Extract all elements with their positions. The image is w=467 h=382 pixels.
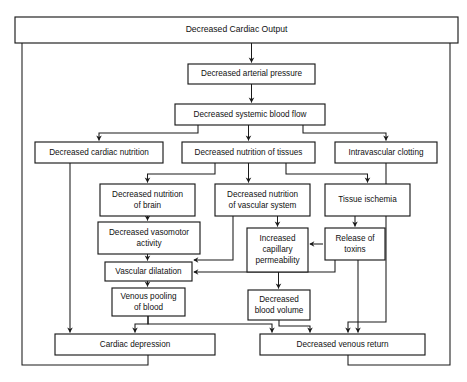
node-decreased-nutrition-of-vascular-system: Decreased nutritionof vascular system	[215, 184, 310, 216]
node-venous-pooling-of-blood: Venous poolingof blood	[112, 288, 185, 316]
node-decreased-venous-return: Decreased venous return	[260, 334, 425, 355]
node-cardiac-depression: Cardiac depression	[55, 334, 215, 355]
node-label-decreased-nutrition-of-vascular-system: of vascular system	[229, 201, 297, 210]
node-label-decreased-nutrition-of-brain: Decreased nutrition	[112, 190, 183, 199]
node-label-venous-pooling-of-blood: of blood	[134, 303, 164, 312]
node-intravascular-clotting: Intravascular clotting	[335, 142, 437, 163]
node-label-intravascular-clotting: Intravascular clotting	[348, 148, 424, 157]
node-label-decreased-vasomotor-activity: Decreased vasomotor	[109, 228, 189, 237]
node-layer: Decreased Cardiac OutputDecreased arteri…	[15, 17, 458, 355]
node-decreased-cardiac-nutrition: Decreased cardiac nutrition	[35, 142, 163, 163]
flowchart-diagram: Decreased Cardiac OutputDecreased arteri…	[0, 0, 467, 382]
node-label-decreased-cardiac-output: Decreased Cardiac Output	[186, 24, 288, 34]
node-release-of-toxins: Release oftoxins	[325, 228, 385, 260]
node-decreased-vasomotor-activity: Decreased vasomotoractivity	[98, 222, 200, 254]
connector-decreased-systemic-blood-flow-to-decreased-cardiac-nutrition	[99, 125, 198, 141]
node-label-vascular-dilatation: Vascular dilatation	[115, 267, 182, 276]
node-label-increased-capillary-permeability: capillary	[262, 245, 293, 254]
node-label-decreased-vasomotor-activity: activity	[136, 239, 162, 248]
node-label-decreased-cardiac-nutrition: Decreased cardiac nutrition	[49, 148, 149, 157]
flowchart-canvas: Decreased Cardiac OutputDecreased arteri…	[0, 0, 467, 382]
node-decreased-nutrition-of-tissues: Decreased nutrition of tissues	[182, 142, 315, 163]
node-label-decreased-arterial-pressure: Decreased arterial pressure	[201, 69, 302, 78]
node-decreased-systemic-blood-flow: Decreased systemic blood flow	[175, 104, 325, 125]
node-label-release-of-toxins: toxins	[344, 245, 365, 254]
connector-decreased-blood-volume-to-decreased-venous-return	[279, 320, 310, 333]
node-label-decreased-nutrition-of-brain: of brain	[134, 201, 162, 210]
node-label-increased-capillary-permeability: Increased	[260, 234, 296, 243]
node-tissue-ischemia: Tissue ischemia	[325, 184, 410, 216]
node-decreased-arterial-pressure: Decreased arterial pressure	[188, 64, 315, 84]
node-label-decreased-systemic-blood-flow: Decreased systemic blood flow	[194, 110, 307, 119]
node-label-venous-pooling-of-blood: Venous pooling	[121, 292, 177, 301]
node-label-decreased-blood-volume: Decreased	[259, 295, 299, 304]
connector-decreased-systemic-blood-flow-to-intravascular-clotting	[303, 125, 386, 141]
node-decreased-blood-volume: Decreasedblood volume	[248, 290, 310, 320]
node-vascular-dilatation: Vascular dilatation	[105, 262, 192, 281]
node-label-decreased-blood-volume: blood volume	[255, 306, 304, 315]
node-label-release-of-toxins: Release of	[335, 234, 375, 243]
node-decreased-cardiac-output: Decreased Cardiac Output	[15, 17, 458, 43]
node-label-decreased-venous-return: Decreased venous return	[297, 340, 389, 349]
node-label-cardiac-depression: Cardiac depression	[100, 340, 171, 349]
node-decreased-nutrition-of-brain: Decreased nutritionof brain	[100, 184, 195, 216]
node-label-decreased-nutrition-of-vascular-system: Decreased nutrition	[227, 190, 298, 199]
node-label-decreased-nutrition-of-tissues: Decreased nutrition of tissues	[195, 148, 303, 157]
connector-decreased-nutrition-of-tissues-to-decreased-nutrition-of-brain	[148, 163, 216, 183]
node-increased-capillary-permeability: Increasedcapillarypermeability	[247, 228, 308, 272]
connector-venous-pooling-of-blood-to-cardiac-depression	[135, 316, 148, 333]
connector-decreased-nutrition-of-tissues-to-tissue-ischemia	[286, 163, 368, 183]
node-label-increased-capillary-permeability: permeability	[255, 256, 300, 265]
node-label-tissue-ischemia: Tissue ischemia	[338, 195, 397, 204]
